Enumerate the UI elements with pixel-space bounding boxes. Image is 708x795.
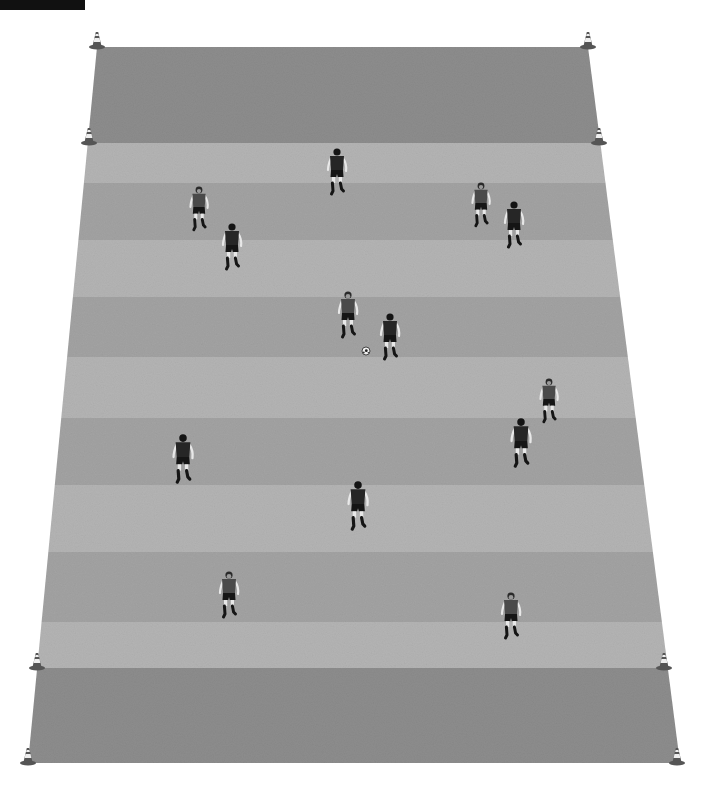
cone-icon bbox=[89, 32, 105, 50]
field-stripe bbox=[73, 240, 620, 297]
field-stripe bbox=[37, 622, 668, 668]
ball-group bbox=[362, 347, 370, 355]
field-stripe bbox=[55, 418, 644, 485]
soccer-drill-field bbox=[0, 0, 708, 795]
end-zone-bottom bbox=[28, 668, 680, 763]
field-stripe bbox=[78, 183, 612, 240]
end-zone-top bbox=[88, 47, 601, 143]
field-surface bbox=[28, 47, 680, 763]
field-stripe bbox=[42, 552, 662, 622]
soccer-ball-icon bbox=[362, 347, 370, 355]
cone-icon bbox=[580, 32, 596, 50]
